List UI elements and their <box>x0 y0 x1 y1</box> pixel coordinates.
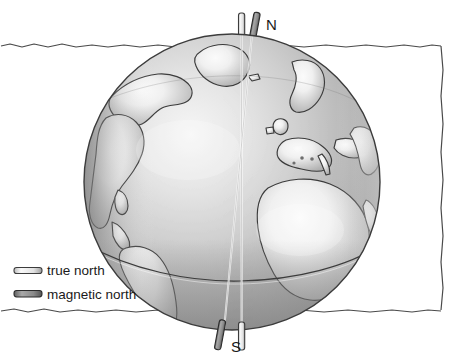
globe <box>84 34 390 352</box>
ireland-shape <box>266 127 274 134</box>
earth-magnetic-axis-figure: N S true north magnetic north <box>0 0 455 357</box>
north-pole-label: N <box>266 16 277 33</box>
legend-item-magnetic-north: magnetic north <box>14 287 136 302</box>
legend-label-true-north: true north <box>47 263 105 278</box>
true-north-rod-icon <box>14 268 42 274</box>
magnetic-north-rod-icon <box>14 291 42 297</box>
legend-label-magnetic-north: magnetic north <box>47 287 136 302</box>
legend-item-true-north: true north <box>14 263 105 278</box>
british-isles-shape <box>273 119 288 135</box>
right-rim-highlight <box>350 34 390 330</box>
south-pole-label: S <box>231 338 241 355</box>
